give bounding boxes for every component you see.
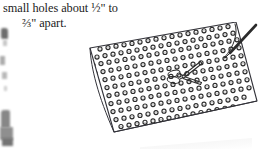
caption-line-1: small holes about ½" to xyxy=(3,1,118,17)
photo-blob xyxy=(1,28,8,39)
photo-blob xyxy=(2,138,13,146)
photo-blob xyxy=(1,110,10,128)
photo-blob xyxy=(2,72,7,79)
photo-blob xyxy=(0,56,5,65)
scanned-page-fragment: small holes about ½" to ⅔" apart. xyxy=(0,0,258,153)
caption-line-2: ⅔" apart. xyxy=(22,16,67,32)
perforated-board-illustration xyxy=(88,22,258,153)
photo-blob xyxy=(4,86,7,91)
photo-blob xyxy=(3,40,7,46)
page-edge-photo-fragment xyxy=(0,26,15,153)
